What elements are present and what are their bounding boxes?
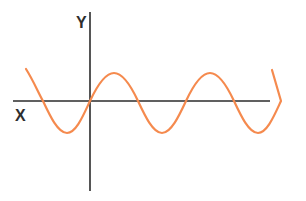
wave-diagram: Y X [0,0,306,201]
y-axis-label: Y [76,14,87,31]
x-axis-label: X [15,107,26,124]
